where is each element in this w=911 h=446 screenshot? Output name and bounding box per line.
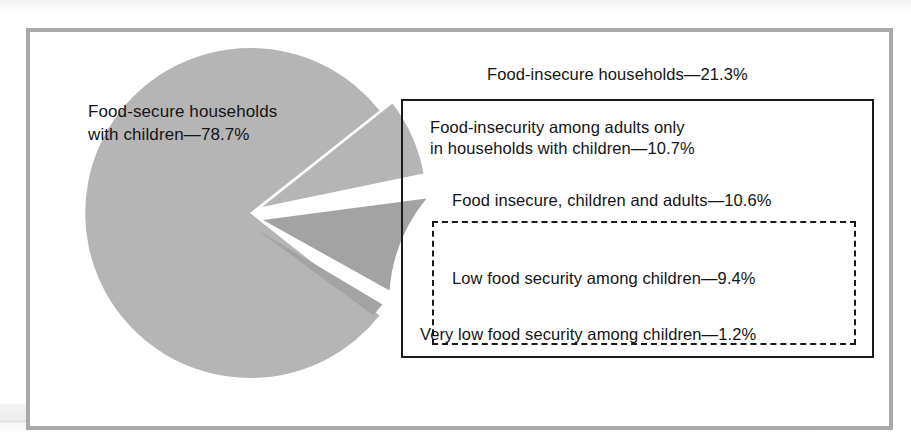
label-low-food-security-among-children: Low food security among children—9.4% [452,268,852,289]
label-food-secure-households: Food-secure households with children—78.… [88,100,348,146]
label-very-low-food-security-among-children: Very low food security among children—1.… [420,324,850,345]
label-food-insecurity-adults-only: Food-insecurity among adults only in hou… [430,117,830,159]
label-food-insecure-households: Food-insecure households—21.3% [487,64,847,85]
label-food-insecure-children-and-adults: Food insecure, children and adults—10.6% [452,190,852,211]
pie-chart: Food-secure households with children—78.… [0,0,911,446]
